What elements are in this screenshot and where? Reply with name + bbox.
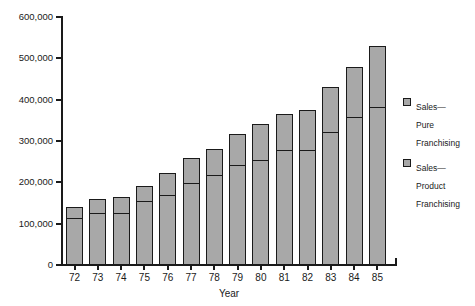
- bar-chart: 0100,000200,000300,000400,000500,000600,…: [0, 0, 475, 306]
- x-axis-title: Year: [0, 288, 458, 299]
- bar-72: [66, 207, 83, 265]
- y-tick-label: 0: [48, 260, 53, 270]
- bar-segment-product-81: [277, 150, 292, 264]
- x-tick-mark: [237, 266, 239, 270]
- bar-80: [252, 124, 269, 265]
- x-tick-mark: [260, 266, 262, 270]
- legend-item-0: Sales—PureFranchising: [403, 96, 475, 150]
- bar-74: [113, 197, 130, 265]
- plot-area: [62, 17, 396, 265]
- bar-82: [299, 110, 316, 265]
- x-tick-mark: [143, 266, 145, 270]
- legend-swatch-product-icon: [403, 159, 411, 167]
- x-tick-mark: [376, 266, 378, 270]
- y-tick-label: 200,000: [19, 177, 53, 187]
- bar-85: [369, 46, 386, 265]
- bar-75: [136, 186, 153, 265]
- y-tick-label: 100,000: [19, 219, 53, 229]
- x-tick-mark: [167, 266, 169, 270]
- x-tick-mark: [213, 266, 215, 270]
- legend-swatch-pure-icon: [403, 98, 411, 106]
- bar-78: [206, 149, 223, 265]
- x-tick-label-85: 85: [362, 272, 392, 283]
- bar-83: [322, 87, 339, 265]
- bar-segment-product-76: [160, 195, 175, 264]
- x-tick-mark: [74, 266, 76, 270]
- x-tick-mark: [330, 266, 332, 270]
- y-tick-label: 600,000: [19, 12, 53, 22]
- x-tick-mark: [97, 266, 99, 270]
- y-tick-label: 400,000: [19, 95, 53, 105]
- bar-segment-product-84: [347, 117, 362, 264]
- y-tick-label: 500,000: [19, 53, 53, 63]
- bar-77: [183, 158, 200, 265]
- bar-79: [229, 134, 246, 265]
- legend-label: Sales—PureFranchising: [416, 102, 460, 148]
- bar-segment-product-82: [300, 150, 315, 264]
- bar-84: [346, 67, 363, 265]
- x-tick-mark: [307, 266, 309, 270]
- bar-segment-product-85: [370, 107, 385, 264]
- bar-segment-product-73: [90, 213, 105, 264]
- bar-segment-product-74: [114, 213, 129, 264]
- x-tick-mark: [283, 266, 285, 270]
- bar-segment-product-77: [184, 183, 199, 264]
- bar-segment-product-72: [67, 218, 82, 264]
- bar-segment-product-83: [323, 132, 338, 264]
- bar-76: [159, 173, 176, 265]
- x-tick-mark: [120, 266, 122, 270]
- bar-segment-product-78: [207, 175, 222, 264]
- bar-81: [276, 114, 293, 265]
- y-tick-label: 300,000: [19, 136, 53, 146]
- bar-segment-product-75: [137, 201, 152, 264]
- chart-legend: Sales—PureFranchisingSales—ProductFranch…: [403, 96, 475, 218]
- x-tick-mark: [353, 266, 355, 270]
- bar-segment-product-79: [230, 165, 245, 264]
- bar-73: [89, 199, 106, 265]
- x-tick-mark: [190, 266, 192, 270]
- legend-label: Sales—ProductFranchising: [416, 163, 460, 209]
- legend-item-1: Sales—ProductFranchising: [403, 157, 475, 211]
- bar-segment-product-80: [253, 160, 268, 264]
